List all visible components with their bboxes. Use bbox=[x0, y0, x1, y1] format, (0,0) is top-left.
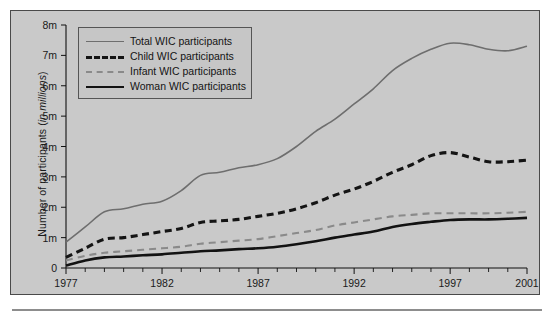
x-tick-label: 1992 bbox=[342, 277, 366, 289]
legend-label-infant: Infant WIC participants bbox=[130, 65, 236, 77]
legend-swatch-woman-icon bbox=[86, 80, 124, 92]
figure-container: Number of participants (in millions) 01m… bbox=[0, 0, 556, 319]
y-tick-label: 7m bbox=[42, 49, 57, 61]
x-tick-label: 1982 bbox=[150, 277, 174, 289]
legend-swatch-infant-icon bbox=[86, 65, 124, 77]
y-tick-label: 6m bbox=[42, 80, 57, 92]
y-tick-label: 0 bbox=[51, 262, 57, 274]
y-axis-ticks bbox=[61, 25, 66, 268]
legend-swatch-total-icon bbox=[86, 35, 124, 47]
legend-item-infant: Infant WIC participants bbox=[86, 63, 244, 78]
legend-label-child: Child WIC participants bbox=[130, 50, 234, 62]
x-axis-ticks bbox=[66, 268, 527, 274]
legend-label-total: Total WIC participants bbox=[130, 35, 232, 47]
y-tick-label: 1m bbox=[42, 232, 57, 244]
legend-item-child: Child WIC participants bbox=[86, 48, 244, 63]
x-tick-label: 1977 bbox=[54, 277, 78, 289]
y-tick-label: 8m bbox=[42, 19, 57, 31]
y-axis-tick-labels: 01m2m3m4m5m6m7m8m bbox=[42, 19, 57, 274]
legend-label-woman: Woman WIC participants bbox=[130, 80, 246, 92]
series-line-woman bbox=[66, 218, 527, 266]
x-tick-label: 2001 bbox=[515, 277, 539, 289]
y-tick-label: 4m bbox=[42, 141, 57, 153]
legend-item-total: Total WIC participants bbox=[86, 33, 244, 48]
y-tick-label: 2m bbox=[42, 201, 57, 213]
x-tick-label: 1997 bbox=[438, 277, 462, 289]
legend-swatch-child-icon bbox=[86, 50, 124, 62]
series-line-child bbox=[66, 153, 527, 258]
legend-item-woman: Woman WIC participants bbox=[86, 78, 244, 93]
bottom-separator-rule bbox=[12, 309, 542, 311]
x-axis-tick-labels: 197719821987199219972001 bbox=[54, 277, 539, 289]
x-tick-label: 1987 bbox=[246, 277, 270, 289]
y-tick-label: 3m bbox=[42, 171, 57, 183]
chart-legend: Total WIC participants Child WIC partici… bbox=[78, 27, 252, 99]
y-tick-label: 5m bbox=[42, 110, 57, 122]
